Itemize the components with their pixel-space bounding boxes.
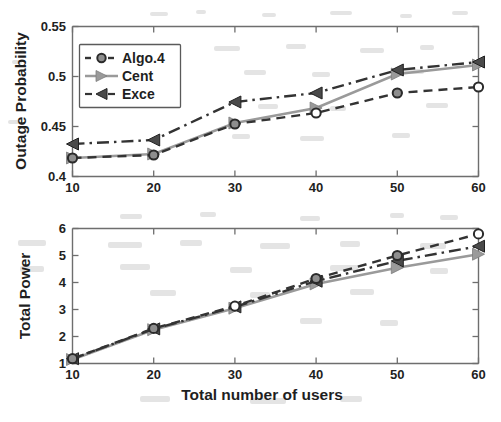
- circle-marker-icon: [97, 54, 105, 62]
- ytick-label-top-3: 0.55: [41, 19, 66, 34]
- xtick-label-top-0: 10: [65, 180, 79, 195]
- outage-probability-svg: 0.4 0.45 0.5 0.55 10 20 30 40 50 60 Outa…: [0, 0, 501, 200]
- xtick-label-bottom-1: 20: [146, 367, 160, 382]
- legend[interactable]: Algo.4 Cent Exce: [80, 45, 181, 108]
- total-power-chart: 1 2 3 4 5 6 10 20 30 40 50 60 Total Powe…: [0, 200, 501, 422]
- ytick-label-bottom-3: 4: [59, 275, 67, 290]
- legend-label-exce: Exce: [122, 86, 155, 102]
- legend-label-algo4: Algo.4: [122, 50, 165, 66]
- ytick-label-bottom-2: 3: [59, 302, 66, 317]
- ytick-label-top-2: 0.5: [48, 69, 66, 84]
- figure-canvas: 0.4 0.45 0.5 0.55 10 20 30 40 50 60 Outa…: [0, 0, 501, 422]
- xtick-label-bottom-3: 40: [309, 367, 323, 382]
- xtick-label-bottom-5: 60: [471, 367, 485, 382]
- ytick-label-top-1: 0.45: [41, 119, 66, 134]
- xlabel-total-number-of-users: Total number of users: [181, 386, 343, 403]
- ytick-label-bottom-1: 2: [59, 329, 66, 344]
- ytick-label-bottom-5: 6: [59, 221, 66, 236]
- xtick-label-top-1: 20: [146, 180, 160, 195]
- xtick-label-bottom-0: 10: [65, 367, 79, 382]
- total-power-svg: 1 2 3 4 5 6 10 20 30 40 50 60 Total Powe…: [0, 200, 501, 422]
- xtick-label-top-3: 40: [309, 180, 323, 195]
- xtick-label-top-2: 30: [228, 180, 242, 195]
- ytick-label-top-0: 0.4: [48, 169, 67, 184]
- xtick-label-top-4: 50: [390, 180, 404, 195]
- xtick-label-bottom-4: 50: [390, 367, 404, 382]
- outage-probability-chart: 0.4 0.45 0.5 0.55 10 20 30 40 50 60 Outa…: [0, 0, 501, 200]
- xtick-label-top-5: 60: [471, 180, 485, 195]
- ytick-label-bottom-4: 5: [59, 248, 66, 263]
- ylabel-outage-probability: Outage Probability: [12, 32, 29, 170]
- xtick-label-bottom-2: 30: [228, 367, 242, 382]
- ylabel-total-power: Total Power: [16, 253, 33, 340]
- legend-label-cent: Cent: [122, 68, 153, 84]
- series-exce-bottom: [67, 240, 485, 365]
